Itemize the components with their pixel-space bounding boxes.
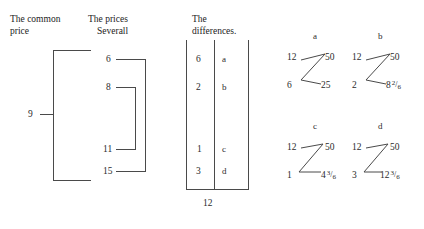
price-severall-value-2: 11 <box>103 144 112 155</box>
price-severall-value-0: 6 <box>106 54 111 65</box>
diagram-d-label: d <box>378 121 383 132</box>
header-common-price-line1: The common <box>10 14 60 25</box>
common-price-value: 9 <box>28 109 33 120</box>
price-severall-value-3: 15 <box>103 166 113 177</box>
difference-label-a: a <box>222 54 226 65</box>
proportion-diagram-c: c 12 50 1 43/6 <box>287 138 353 198</box>
difference-value-0: 6 <box>196 54 201 65</box>
difference-label-c: c <box>222 144 226 155</box>
diagram-b-cross-lines <box>352 48 418 96</box>
diagram-a-cross-lines <box>287 48 353 96</box>
differences-total: 12 <box>203 198 213 209</box>
proportion-diagram-b: b 12 50 2 82/6 <box>352 48 418 108</box>
proportion-diagram-d: d 12 50 3 123/6 <box>352 138 418 198</box>
difference-value-3: 3 <box>196 166 201 177</box>
proportion-diagram-a: a 12 50 6 25 <box>287 48 353 108</box>
difference-value-2: 1 <box>197 144 202 155</box>
header-differences-line1: The <box>192 14 207 25</box>
diagram-a-label: a <box>313 31 317 42</box>
difference-label-b: b <box>222 82 227 93</box>
diagram-b-label: b <box>378 31 383 42</box>
header-prices-severall-line2: Severall <box>97 26 128 37</box>
document-page: The common price The prices Severall The… <box>0 0 424 229</box>
diagram-c-cross-lines <box>287 138 353 186</box>
header-differences-line2: differences. <box>192 26 236 37</box>
difference-label-d: d <box>222 166 227 177</box>
difference-value-1: 2 <box>196 82 201 93</box>
header-prices-severall-line1: The prices <box>88 14 128 25</box>
diagram-d-cross-lines <box>352 138 418 186</box>
diagram-c-label: c <box>313 121 317 132</box>
price-severall-value-1: 8 <box>106 82 111 93</box>
header-common-price-line2: price <box>10 26 29 37</box>
